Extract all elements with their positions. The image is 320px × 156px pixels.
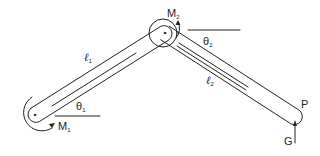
link1-label: ℓ1	[84, 52, 92, 64]
base-pivot	[34, 114, 36, 116]
link2-label: ℓ2	[206, 75, 214, 87]
theta2-label: θ2	[203, 36, 212, 48]
endpoint-p-label: P	[301, 99, 308, 110]
moment1-label: M1	[58, 121, 71, 133]
link-1	[28, 26, 172, 123]
elbow-joint	[149, 19, 177, 47]
moment2-arrowhead	[176, 20, 181, 25]
link-2	[161, 26, 303, 124]
force-g-arrowhead	[293, 120, 297, 126]
theta1-label: θ1	[76, 101, 85, 113]
manipulator-diagram	[0, 0, 320, 156]
elbow-pivot	[164, 32, 166, 34]
moment2-label: M2	[167, 8, 180, 20]
moment1-arrowhead	[49, 123, 55, 128]
force-g-label: G	[284, 136, 293, 147]
